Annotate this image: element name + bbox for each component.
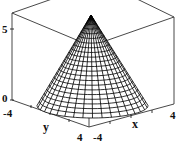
- y-tick-max: 4: [77, 131, 83, 143]
- x-tick-min: -4: [93, 131, 103, 143]
- x-tick-max: 4: [170, 109, 176, 121]
- cone-surface-plot: 5 0 -4 y 4 -4 x 4: [0, 0, 180, 148]
- z-tick-5: 5: [2, 23, 8, 35]
- y-axis-label: y: [43, 120, 49, 134]
- x-axis-label: x: [132, 117, 138, 131]
- y-tick-min: -4: [3, 107, 13, 119]
- z-tick-0: 0: [2, 92, 8, 104]
